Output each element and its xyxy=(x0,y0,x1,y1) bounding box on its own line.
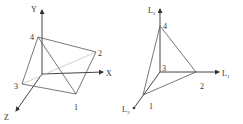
right-diagram-l123: L2 L1 L3 4 3 2 1 xyxy=(122,6,230,115)
z-axis xyxy=(16,74,42,111)
point-2-label: 2 xyxy=(98,49,102,58)
point-1-label: 1 xyxy=(74,103,78,112)
l2-axis-label: L2 xyxy=(148,6,156,16)
z-axis-label: Z xyxy=(4,113,9,122)
point-4-label: 4 xyxy=(163,22,167,31)
left-diagram-xyz: Y X Z 4 2 3 1 xyxy=(4,5,112,122)
x-axis xyxy=(42,72,103,74)
point-3-label: 3 xyxy=(14,82,18,91)
l3-axis-label: L3 xyxy=(122,105,130,115)
y-axis-label: Y xyxy=(31,5,37,14)
l3-axis-end-dot xyxy=(133,107,136,110)
quad-edges xyxy=(22,37,96,94)
point-4-label: 4 xyxy=(30,33,34,42)
l1-axis-label: L1 xyxy=(222,69,230,79)
diagram-canvas: Y X Z 4 2 3 1 L2 L1 L3 4 3 2 1 xyxy=(0,0,243,124)
point-2-label: 2 xyxy=(200,82,204,91)
point-1-label: 1 xyxy=(149,102,153,111)
point-3-label: 3 xyxy=(162,64,166,73)
x-axis-label: X xyxy=(106,69,112,78)
